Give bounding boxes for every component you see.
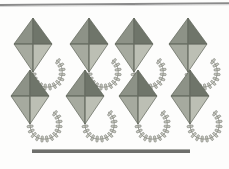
kite-tail-bow: [55, 80, 61, 86]
kite-tail-bow: [209, 134, 214, 141]
kite-tail-bow: [163, 115, 170, 120]
kite-panel-bottom-left: [14, 44, 33, 72]
kite-tail-bow: [28, 129, 35, 134]
kite-panel-bottom-right: [138, 96, 157, 124]
kite-panel-top-left: [14, 18, 33, 44]
kite-panel-top-left: [119, 70, 138, 96]
kite-tail-bow: [156, 80, 162, 86]
kite-tail-string: [30, 112, 59, 139]
kite-tail-bow: [108, 82, 113, 89]
kite-tail-bow: [90, 80, 96, 86]
kite-tail-bow: [210, 58, 215, 64]
kite-tail-bow: [86, 73, 92, 76]
kite-tail-bow: [216, 120, 222, 123]
kite-panel-bottom-left: [119, 96, 138, 124]
kite-tail-bow: [143, 134, 147, 141]
kite-tail-bow: [45, 136, 48, 142]
kite-tail-bow: [215, 115, 222, 120]
kite-tail-bow: [111, 125, 117, 128]
kite-tail-bow: [213, 63, 220, 68]
kite-tail-bows: [187, 110, 222, 142]
kite-tail-bow: [210, 80, 216, 86]
kite-tail-bow: [94, 82, 98, 89]
kite-tail-bow: [31, 132, 37, 138]
kite-panel-bottom-left: [171, 96, 190, 124]
kite-panel-bottom-right: [89, 44, 108, 72]
kite-tail-bow: [149, 136, 152, 142]
kite-panel-top-right: [89, 18, 108, 44]
kite-tail-bow: [110, 129, 117, 133]
kite-tail-string: [134, 60, 163, 87]
kite-tail-bow: [90, 134, 94, 141]
kite-tail-bow: [212, 132, 218, 138]
kite-tail-bow: [135, 80, 141, 86]
kite-panel-bottom-left: [70, 44, 89, 72]
kite-tail-bow: [139, 132, 145, 138]
kite-panel-bottom-right: [134, 44, 153, 72]
kite: [55, 66, 131, 142]
kite-tail-bow: [131, 73, 137, 76]
kite-tail-bow: [214, 73, 220, 76]
kite-tail-bows: [86, 58, 121, 90]
kite-tail-bow: [52, 132, 58, 138]
kite-panel-bottom-right: [190, 96, 209, 124]
kite: [158, 14, 229, 90]
kite-tail-bow: [164, 120, 170, 123]
kite-tail-bows: [82, 110, 117, 142]
kite-tail-bow: [35, 134, 39, 141]
kite-panel-bottom-right: [85, 96, 104, 124]
kite-panel-top-right: [190, 70, 209, 96]
kite-tail-bow: [31, 77, 38, 82]
kite-panel-top-left: [169, 18, 188, 44]
kite-tail-bow: [145, 84, 148, 90]
kite-tail-bow: [216, 125, 222, 128]
kite-tail-bow: [58, 77, 65, 81]
kite-panel-bottom-left: [115, 44, 134, 72]
kite-panel-bottom-right: [30, 96, 49, 124]
kite-tail-bow: [58, 63, 65, 68]
kite-tail-bow: [153, 136, 156, 142]
kite-tail-bow: [159, 77, 166, 81]
kite-tail-bow: [111, 120, 117, 123]
kite-panel-top-right: [85, 70, 104, 96]
kite-tail-bow: [30, 73, 36, 76]
kite-tail-bow: [212, 110, 217, 116]
kite-panel-bottom-left: [169, 44, 188, 72]
kite-tail-bow: [135, 125, 141, 128]
kite-panel-top-left: [115, 18, 134, 44]
kite-tail-bow: [191, 132, 197, 138]
kite-tail-bow: [160, 132, 166, 138]
kite-tail-bow: [55, 129, 62, 133]
kite-tail-bow: [160, 73, 166, 76]
kite-panel-top-right: [138, 70, 157, 96]
kite-tail-bow: [215, 129, 222, 133]
kite-panel-bottom-left: [11, 96, 30, 124]
kite-panel-top-right: [188, 18, 207, 44]
kite-tail-bow: [48, 84, 51, 90]
kite-panel-bottom-right: [188, 44, 207, 72]
kite-panel-top-left: [66, 70, 85, 96]
kite-tail-bow: [107, 110, 112, 116]
kite-tail-bow: [55, 58, 60, 64]
kite-tail-bow: [38, 82, 42, 89]
kite-tail-bow: [82, 125, 88, 128]
kite: [108, 66, 184, 142]
kite-tail-string: [33, 60, 62, 87]
kite-tail-bow: [56, 125, 62, 128]
kite-tail-bow: [213, 77, 220, 81]
kite-tail-bow: [205, 136, 208, 142]
kite-tail-string: [190, 112, 219, 139]
kite-tail-bow: [157, 134, 162, 141]
kite-tail-bow: [149, 84, 152, 90]
kite-panel-top-left: [171, 70, 190, 96]
kite-tail-bows: [185, 58, 220, 90]
kite-tail-bow: [59, 73, 65, 76]
bottom-horizontal-line: [32, 150, 190, 153]
kite-tail-bow: [188, 129, 195, 134]
kite-tail-bow: [114, 63, 121, 68]
kite-tail-bow: [86, 132, 92, 138]
kite-tail-bow: [104, 84, 107, 90]
kite-tail-bow: [163, 129, 170, 133]
kite-tail-bow: [52, 82, 57, 89]
kite-tail-bow: [114, 77, 121, 81]
